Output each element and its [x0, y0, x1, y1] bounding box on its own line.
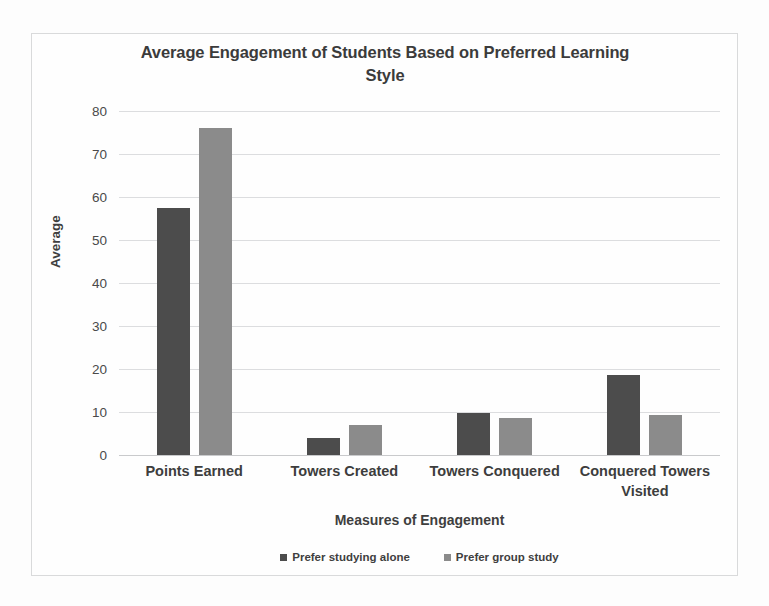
bar-1-0 — [307, 438, 340, 455]
y-tick-label-10: 10 — [67, 405, 107, 420]
chart-title: Average Engagement of Students Based on … — [70, 41, 700, 87]
x-label-1: Towers Created — [269, 461, 419, 481]
y-tick-label-30: 30 — [67, 319, 107, 334]
bar-series-container — [119, 111, 720, 455]
legend-item-0[interactable]: Prefer studying alone — [280, 551, 410, 563]
y-tick-label-70: 70 — [67, 147, 107, 162]
x-label-line: Visited — [570, 481, 720, 501]
x-label-0: Points Earned — [119, 461, 269, 481]
y-tick-label-80: 80 — [67, 104, 107, 119]
legend-item-1[interactable]: Prefer group study — [444, 551, 559, 563]
bar-3-0 — [607, 375, 640, 455]
bar-2-1 — [499, 418, 532, 455]
x-label-3: Conquered TowersVisited — [570, 461, 720, 501]
y-tick-label-40: 40 — [67, 276, 107, 291]
legend-swatch-icon — [444, 554, 451, 561]
page-background: Average Engagement of Students Based on … — [0, 0, 769, 606]
x-label-line: Conquered Towers — [570, 461, 720, 481]
legend-label: Prefer studying alone — [292, 551, 410, 563]
bar-2-0 — [457, 413, 490, 455]
y-axis-title: Average — [48, 215, 63, 268]
gridline-0 — [119, 455, 720, 456]
y-tick-label-0: 0 — [67, 448, 107, 463]
bar-0-1 — [199, 128, 232, 455]
y-tick-label-20: 20 — [67, 362, 107, 377]
y-tick-label-60: 60 — [67, 190, 107, 205]
bar-3-1 — [649, 415, 682, 455]
x-label-line: Towers Conquered — [420, 461, 570, 481]
x-axis-category-labels: Points EarnedTowers CreatedTowers Conque… — [119, 461, 720, 509]
chart-title-line-2: Style — [70, 64, 700, 87]
chart-legend: Prefer studying alonePrefer group study — [119, 551, 720, 563]
x-label-line: Points Earned — [119, 461, 269, 481]
x-axis-title: Measures of Engagement — [119, 512, 720, 528]
bar-0-0 — [157, 208, 190, 455]
legend-swatch-icon — [280, 554, 287, 561]
chart-title-line-1: Average Engagement of Students Based on … — [70, 41, 700, 64]
x-label-line: Towers Created — [269, 461, 419, 481]
bar-1-1 — [349, 425, 382, 455]
legend-label: Prefer group study — [456, 551, 559, 563]
y-tick-label-50: 50 — [67, 233, 107, 248]
x-label-2: Towers Conquered — [420, 461, 570, 481]
